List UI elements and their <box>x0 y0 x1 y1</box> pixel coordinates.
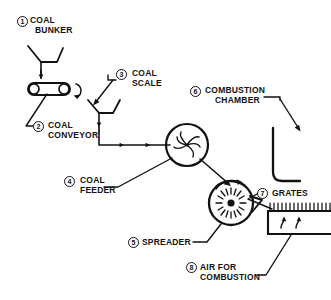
label-spreader: SPREADER <box>142 237 191 247</box>
scale-to-feeder-flow <box>99 131 170 147</box>
air-for-combustion-arrows <box>281 217 301 229</box>
label-coal-scale-line2: SCALE <box>132 78 162 88</box>
label-coal-feeder-line2: FEEDER <box>80 185 116 195</box>
leader-coal-scale <box>93 75 116 106</box>
grates-teeth <box>270 203 330 211</box>
coal-conveyor-shape <box>28 83 70 95</box>
conveyor-rotation-arrowhead <box>74 94 81 99</box>
diagram-canvas <box>0 0 331 300</box>
label-air-for-combustion-line1: AIR FOR <box>200 262 236 272</box>
label-coal-feeder-line1: COAL <box>80 175 105 185</box>
spreader-starburst <box>216 188 246 218</box>
label-combustion-chamber-line1: COMBUSTION <box>205 85 265 95</box>
label-combustion-chamber-line2: CHAMBER <box>215 95 260 105</box>
leader-air-for-combustion <box>257 235 291 275</box>
leader-combustion-chamber <box>264 97 301 132</box>
coal-feeder-impeller <box>174 132 200 157</box>
leader-coal-feeder <box>104 158 172 187</box>
callout-8-air-for-combustion[interactable]: 8 <box>186 262 197 273</box>
leader-spreader <box>193 224 221 242</box>
scale-discharge-arrowhead <box>97 123 102 128</box>
coal-bunker-shape <box>28 46 63 78</box>
label-coal-conveyor-line1: COAL <box>48 120 73 130</box>
callout-6-combustion-chamber[interactable]: 6 <box>190 86 201 97</box>
bunker-arrowhead <box>39 74 44 79</box>
callout-3-coal-scale[interactable]: 3 <box>116 69 127 80</box>
callout-1-coal-bunker[interactable]: 1 <box>17 16 28 27</box>
label-coal-scale-line1: COAL <box>132 68 157 78</box>
combustion-chamber-wall <box>273 128 300 181</box>
callout-2-coal-conveyor[interactable]: 2 <box>33 121 44 132</box>
label-grates: GRATES <box>272 188 308 198</box>
label-coal-bunker-line1: COAL <box>30 15 55 25</box>
callout-4-coal-feeder[interactable]: 4 <box>64 176 75 187</box>
label-coal-bunker-line2: BUNKER <box>35 25 73 35</box>
label-air-for-combustion-line2: COMBUSTION <box>200 272 260 282</box>
label-coal-conveyor-line2: CONVEYOR <box>48 130 98 140</box>
callout-7-grates[interactable]: 7 <box>257 188 268 199</box>
coal-stoker-diagram: 1 COAL BUNKER 2 COAL CONVEYOR 3 COAL SCA… <box>0 0 331 300</box>
callout-5-spreader[interactable]: 5 <box>128 237 139 248</box>
coal-scale-shape <box>88 100 120 131</box>
